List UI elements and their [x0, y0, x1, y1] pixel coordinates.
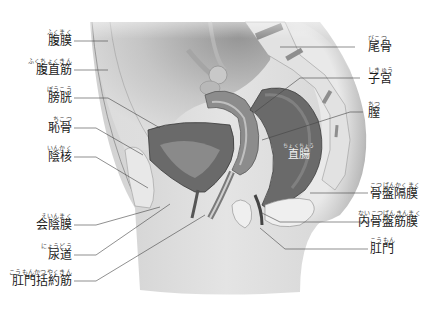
label-urethra: にょうどう 尿道	[41, 242, 73, 262]
label-anal-sphincter: こうもんかつやくきん 肛門括約筋	[9, 268, 72, 288]
label-vagina: ちつ 膣	[368, 100, 381, 120]
label-text: 内骨盤筋膜	[358, 216, 421, 229]
label-text: 膀胱	[47, 92, 72, 105]
label-text: 直腸	[283, 148, 315, 161]
label-text: 陰核	[47, 151, 72, 164]
label-text: 膣	[368, 107, 381, 120]
label-text: 会陰膜	[36, 219, 72, 232]
label-anus: こうもん 肛門	[370, 236, 395, 256]
label-peritoneum: ふくまく 腹膜	[47, 28, 72, 48]
label-text: 骨盤隔膜	[370, 188, 420, 201]
label-rectum: ちょくちょう 直腸	[283, 142, 315, 161]
label-pubic-bone: ちこつ 恥骨	[48, 115, 72, 135]
label-endopelvic-fascia: ないこつばんきんまく 内骨盤筋膜	[358, 209, 421, 229]
label-text: 尿道	[41, 249, 73, 262]
label-text: 恥骨	[48, 122, 72, 135]
label-text: 腹直筋	[28, 64, 72, 77]
label-text: 腹膜	[47, 35, 72, 48]
label-rectus-abdominis: ふくちょくきん 腹直筋	[28, 57, 72, 77]
label-text: 尾骨	[368, 41, 392, 54]
label-bladder: ぼうこう 膀胱	[47, 85, 72, 105]
label-text: 肛門	[370, 243, 395, 256]
label-perineal-membrane: えいんまく 会陰膜	[36, 212, 72, 232]
label-text: 子宮	[368, 73, 393, 86]
label-pelvic-diaphragm: こつばんかくまく 骨盤隔膜	[370, 181, 420, 201]
label-uterus: しきゅう 子宮	[368, 66, 393, 86]
label-clitoris: いんかく 陰核	[47, 144, 72, 164]
label-text: 肛門括約筋	[9, 275, 72, 288]
label-coccyx: びこつ 尾骨	[368, 34, 392, 54]
